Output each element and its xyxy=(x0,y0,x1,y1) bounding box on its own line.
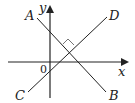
label-b: B xyxy=(108,88,119,103)
diagram-canvas: y x 0 A B C D xyxy=(0,0,135,103)
label-x: x xyxy=(118,64,126,79)
label-d: D xyxy=(108,8,120,23)
label-y: y xyxy=(38,0,47,15)
line-ab xyxy=(37,18,106,92)
label-a: A xyxy=(24,8,34,23)
right-angle-mark xyxy=(63,39,74,45)
label-c: C xyxy=(15,88,25,103)
label-origin: 0 xyxy=(40,63,47,76)
